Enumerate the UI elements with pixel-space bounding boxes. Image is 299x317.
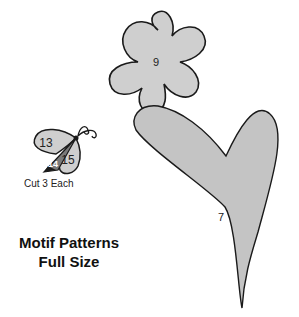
flower-number: 9 xyxy=(153,56,159,68)
title-line-2: Full Size xyxy=(14,252,124,271)
flower-pattern: 9 xyxy=(109,11,205,112)
wing-top-number: 13 xyxy=(39,136,53,150)
title-line-1: Motif Patterns xyxy=(14,233,124,252)
cut-instruction: Cut 3 Each xyxy=(24,178,73,189)
heart-number: 7 xyxy=(218,211,224,223)
butterfly-pattern: 13 14 15 xyxy=(34,127,96,174)
heart-pattern: 7 xyxy=(134,106,278,308)
page-title: Motif Patterns Full Size xyxy=(14,233,124,271)
body-number: 14 xyxy=(48,159,58,169)
wing-bottom-number: 15 xyxy=(61,153,75,167)
